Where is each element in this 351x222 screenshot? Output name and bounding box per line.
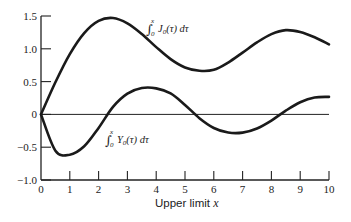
- annotation-j0-integral: ∫ x 0 J0(τ) dτ: [146, 17, 190, 38]
- y0-integral-curve: [41, 88, 329, 156]
- curves: [41, 18, 329, 156]
- integral-upper-limit: x: [150, 17, 155, 25]
- x-tick-label: 2: [96, 183, 102, 195]
- y-tick-label: −0.5: [17, 141, 37, 153]
- y-tick-label: 0: [32, 108, 38, 120]
- annotation-label: Y0(τ) dτ: [117, 134, 150, 147]
- x-tick-label: 1: [67, 183, 73, 195]
- y-tick-label: 1.5: [23, 10, 37, 22]
- x-tick-label: 3: [125, 183, 131, 195]
- integral-lower-limit: 0: [110, 141, 114, 149]
- annotation-y0-integral: ∫ x 0 Y0(τ) dτ: [105, 128, 150, 149]
- y-tick-label: 0.5: [23, 76, 37, 88]
- x-tick-label: 10: [324, 183, 336, 195]
- integral-lower-limit: 0: [151, 30, 155, 38]
- axes: −1.0−0.500.51.01.5012345678910: [17, 10, 335, 195]
- x-tick-label: 8: [269, 183, 275, 195]
- y-tick-label: −1.0: [17, 174, 37, 186]
- x-tick-label: 9: [297, 183, 303, 195]
- x-tick-label: 0: [38, 183, 44, 195]
- x-axis-title: Upper limit x: [155, 196, 219, 210]
- x-tick-label: 5: [182, 183, 188, 195]
- bessel-integral-chart: −1.0−0.500.51.01.5012345678910 ∫ x 0 J0(…: [0, 0, 351, 222]
- x-tick-label: 6: [211, 183, 217, 195]
- integral-upper-limit: x: [109, 128, 114, 136]
- x-tick-label: 7: [240, 183, 246, 195]
- x-tick-label: 4: [153, 183, 159, 195]
- y-tick-label: 1.0: [23, 43, 37, 55]
- annotation-label: J0(τ) dτ: [158, 23, 190, 36]
